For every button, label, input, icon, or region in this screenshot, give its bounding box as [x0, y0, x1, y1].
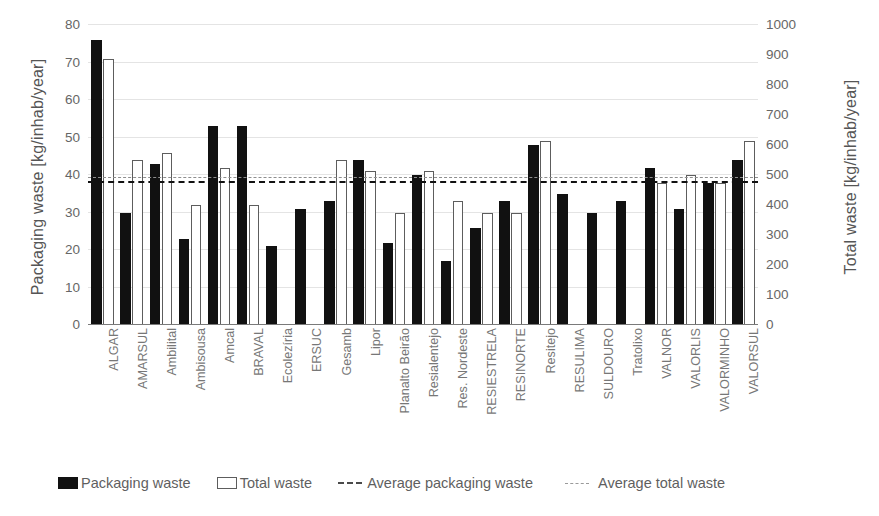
- average-total-waste-line: [88, 177, 758, 178]
- y-axis-right-ticks: 10009008007006005004003002001000: [766, 25, 814, 325]
- bar-total-waste: [103, 59, 114, 325]
- bar-group: [641, 25, 670, 325]
- bar-group: [408, 25, 437, 325]
- x-axis-label: VALORSUL: [748, 328, 761, 394]
- x-axis-label: SULDOURO: [603, 328, 616, 399]
- dark-dashed-line-icon: [338, 482, 362, 484]
- y-axis-left-tick: 60: [65, 93, 80, 107]
- average-packaging-waste-line: [88, 181, 758, 183]
- legend-label-average-total-waste: Average total waste: [598, 475, 725, 491]
- bar-group: [612, 25, 641, 325]
- bar-total-waste: [540, 141, 551, 325]
- x-axis-label: Amcal: [224, 328, 237, 363]
- legend-item-total-waste: Total waste: [217, 475, 313, 491]
- bar-group: [467, 25, 496, 325]
- y-axis-left-tick: 10: [65, 281, 80, 295]
- bar-total-waste: [336, 160, 347, 325]
- bar-total-waste: [132, 160, 143, 325]
- y-axis-right-tick: 500: [766, 168, 789, 182]
- bar-group: [263, 25, 292, 325]
- legend-label-average-packaging-waste: Average packaging waste: [367, 475, 533, 491]
- legend-item-packaging-waste: Packaging waste: [58, 475, 191, 491]
- y-axis-left-tick: 0: [72, 318, 80, 332]
- x-axis-label: RESINORTE: [515, 328, 528, 401]
- bar-total-waste: [162, 153, 173, 326]
- y-axis-left-tick: 70: [65, 56, 80, 70]
- x-axis-line: [88, 324, 758, 326]
- bar-group: [234, 25, 263, 325]
- legend-item-average-packaging-waste: Average packaging waste: [338, 475, 533, 491]
- bar-total-waste: [395, 213, 406, 326]
- bar-total-waste: [424, 171, 435, 325]
- x-axis-label: Lipor: [370, 328, 383, 356]
- y-axis-right-tick: 200: [766, 258, 789, 272]
- y-axis-right-tick: 0: [766, 318, 774, 332]
- x-axis-label: Ambisousa: [195, 328, 208, 390]
- bar-total-waste: [482, 213, 493, 326]
- x-axis-label: Planalto Beirão: [399, 328, 412, 413]
- x-axis-label: Gesamb: [341, 328, 354, 376]
- bar-packaging-waste: [179, 239, 190, 325]
- x-axis-label: VALORLIS: [690, 328, 703, 389]
- bar-group: [175, 25, 204, 325]
- bar-packaging-waste: [266, 246, 277, 325]
- bar-packaging-waste: [383, 243, 394, 326]
- bar-total-waste: [511, 213, 522, 326]
- bar-group: [438, 25, 467, 325]
- x-axis-label: RESULIMA: [574, 328, 587, 392]
- x-axis-label: AMARSUL: [137, 328, 150, 389]
- bar-packaging-waste: [91, 40, 102, 325]
- bar-group: [88, 25, 117, 325]
- y-axis-left-tick: 20: [65, 243, 80, 257]
- y-axis-right-tick: 600: [766, 138, 789, 152]
- bar-group: [729, 25, 758, 325]
- bar-total-waste: [249, 205, 260, 325]
- x-axis-label: VALORMINHO: [719, 328, 732, 412]
- bar-packaging-waste: [353, 160, 364, 325]
- y-axis-right-tick: 1000: [766, 18, 796, 32]
- bar-group: [379, 25, 408, 325]
- bar-total-waste: [220, 168, 231, 326]
- bar-packaging-waste: [150, 164, 161, 325]
- x-axis-label: Tratolixo: [632, 328, 645, 376]
- bar-packaging-waste: [732, 160, 743, 325]
- legend-label-packaging-waste: Packaging waste: [81, 475, 191, 491]
- bar-group: [583, 25, 612, 325]
- bar-total-waste: [744, 141, 755, 325]
- y-axis-right-tick: 700: [766, 108, 789, 122]
- bar-packaging-waste: [557, 194, 568, 325]
- chart-legend: Packaging waste Total waste Average pack…: [58, 470, 848, 496]
- bar-group: [496, 25, 525, 325]
- x-axis-label: ALGAR: [108, 328, 121, 371]
- bar-group: [321, 25, 350, 325]
- bar-group: [671, 25, 700, 325]
- x-axis-label: ERSUC: [311, 328, 324, 372]
- hollow-square-icon: [217, 477, 237, 489]
- bar-total-waste: [657, 183, 668, 326]
- y-axis-left-tick: 80: [65, 18, 80, 32]
- x-axis-label: Resialentejo: [428, 328, 441, 397]
- bar-packaging-waste: [441, 261, 452, 325]
- filled-square-icon: [58, 477, 78, 489]
- x-axis-label: Res. Nordeste: [457, 328, 470, 409]
- bar-group: [205, 25, 234, 325]
- bar-packaging-waste: [528, 145, 539, 325]
- bar-packaging-waste: [470, 228, 481, 326]
- y-axis-right-title: Total waste [kg/inhab/year]: [842, 27, 860, 327]
- plot-area: [88, 25, 758, 325]
- bar-packaging-waste: [237, 126, 248, 325]
- y-axis-left-tick: 50: [65, 131, 80, 145]
- bar-group: [292, 25, 321, 325]
- x-axis-label: Ecolezíria: [282, 328, 295, 383]
- y-axis-left-tick: 30: [65, 206, 80, 220]
- bar-total-waste: [365, 171, 376, 325]
- bar-packaging-waste: [674, 209, 685, 325]
- x-axis-label: RESIESTRELA: [486, 328, 499, 415]
- x-axis-label: BRAVAL: [253, 328, 266, 376]
- bar-group: [350, 25, 379, 325]
- bar-total-waste: [715, 183, 726, 326]
- bar-total-waste: [453, 201, 464, 325]
- y-axis-left-ticks: 80706050403020100: [40, 25, 80, 325]
- x-axis-label: VALNOR: [661, 328, 674, 379]
- x-axis-labels: ALGARAMARSULAmbilitalAmbisousaAmcalBRAVA…: [88, 328, 758, 458]
